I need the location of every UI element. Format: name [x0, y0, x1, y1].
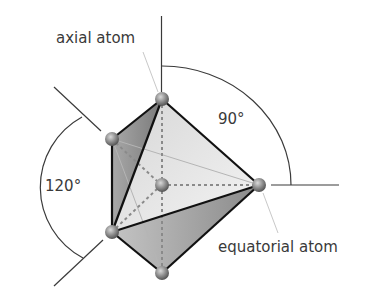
angle-120-label: 120°	[45, 177, 81, 195]
atom-central	[155, 178, 169, 192]
lower-left-axis-line	[54, 240, 103, 286]
axial-atom-label: axial atom	[56, 29, 135, 47]
equatorial-atom-label: equatorial atom	[218, 238, 338, 256]
atom-axial-top	[155, 92, 169, 106]
trigonal-bipyramid-diagram: axial atom equatorial atom 90° 120°	[0, 0, 377, 297]
atom-equatorial-right	[252, 178, 266, 192]
axial-leader	[143, 52, 158, 92]
equatorial-leader	[263, 193, 278, 233]
upper-left-axis-line	[54, 87, 101, 131]
atom-axial-bottom	[155, 266, 169, 280]
atom-equatorial-lower-left	[105, 225, 119, 239]
angle-90-label: 90°	[218, 110, 245, 128]
atom-equatorial-upper-left	[105, 132, 119, 146]
